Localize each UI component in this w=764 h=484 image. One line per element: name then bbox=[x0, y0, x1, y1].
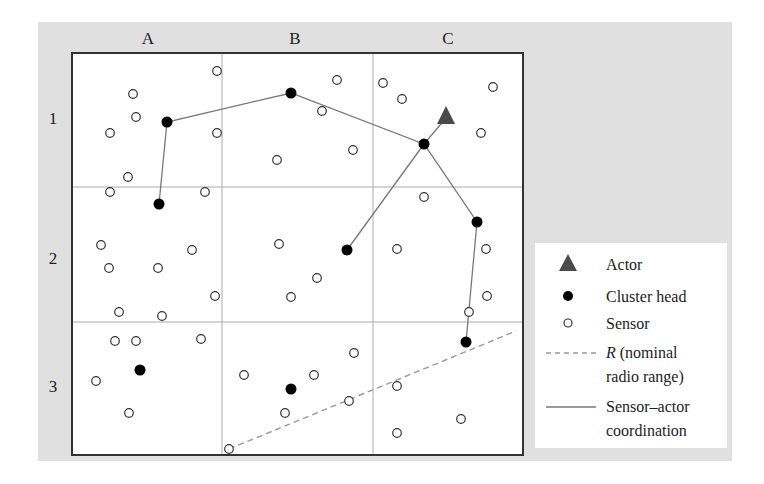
legend-filled-circle-icon bbox=[563, 291, 573, 301]
sensor-node bbox=[197, 335, 206, 344]
sensor-node bbox=[393, 245, 402, 254]
sensor-node bbox=[345, 397, 354, 406]
row-label-1: 1 bbox=[49, 109, 58, 128]
sensor-node bbox=[333, 76, 342, 85]
column-label-a: A bbox=[142, 29, 155, 48]
column-label-b: B bbox=[289, 29, 300, 48]
sensor-node bbox=[240, 371, 249, 380]
legend-label-coordination: Sensor–actor bbox=[606, 398, 690, 415]
cluster-head-node bbox=[135, 365, 146, 376]
sensor-node bbox=[489, 83, 498, 92]
cluster-head-node bbox=[419, 139, 430, 150]
sensor-node bbox=[211, 292, 220, 301]
cluster-head-node bbox=[342, 245, 353, 256]
sensor-node bbox=[132, 113, 141, 122]
sensor-node bbox=[132, 337, 141, 346]
sensor-node bbox=[465, 308, 474, 317]
column-label-c: C bbox=[442, 29, 453, 48]
sensor-node bbox=[349, 146, 358, 155]
sensor-node bbox=[92, 377, 101, 386]
sensor-node bbox=[273, 156, 282, 165]
sensor-node bbox=[457, 415, 466, 424]
plot-area bbox=[72, 53, 523, 455]
sensor-node bbox=[482, 245, 491, 254]
cluster-head-node bbox=[162, 117, 173, 128]
cluster-head-node bbox=[472, 217, 483, 228]
sensor-node bbox=[111, 337, 120, 346]
sensor-node bbox=[379, 79, 388, 88]
sensor-actor-network-diagram: A B C 1 2 3 Actor Cluster head Sensor R … bbox=[0, 0, 764, 484]
legend-label-range-line2: radio range) bbox=[606, 368, 684, 386]
sensor-node bbox=[213, 129, 222, 138]
sensor-node bbox=[115, 308, 124, 317]
cluster-head-node bbox=[286, 384, 297, 395]
cluster-head-node bbox=[286, 88, 297, 99]
legend-label-actor: Actor bbox=[606, 256, 643, 273]
sensor-node bbox=[310, 371, 319, 380]
sensor-node bbox=[105, 264, 114, 273]
sensor-node bbox=[350, 349, 359, 358]
sensor-node bbox=[125, 409, 134, 418]
sensor-node bbox=[154, 264, 163, 273]
legend: Actor Cluster head Sensor R (nominal rad… bbox=[535, 243, 727, 448]
sensor-node bbox=[393, 429, 402, 438]
sensor-node bbox=[201, 188, 210, 197]
legend-label-sensor: Sensor bbox=[606, 315, 650, 332]
legend-label-cluster-head: Cluster head bbox=[606, 288, 686, 305]
sensor-node bbox=[393, 382, 402, 391]
legend-label-range: R (nominal bbox=[605, 344, 678, 362]
sensor-node bbox=[398, 95, 407, 104]
sensor-node bbox=[97, 241, 106, 250]
sensor-node bbox=[313, 274, 322, 283]
sensor-node bbox=[420, 193, 429, 202]
sensor-node bbox=[106, 129, 115, 138]
row-label-3: 3 bbox=[49, 377, 58, 396]
sensor-node bbox=[188, 246, 197, 255]
legend-open-circle-icon bbox=[564, 319, 572, 327]
sensor-node bbox=[213, 67, 222, 76]
sensor-node bbox=[129, 90, 138, 99]
sensor-node bbox=[124, 173, 133, 182]
sensor-node bbox=[483, 292, 492, 301]
row-label-2: 2 bbox=[49, 249, 58, 268]
sensor-node bbox=[275, 240, 284, 249]
sensor-node bbox=[225, 445, 234, 454]
sensor-node bbox=[318, 107, 327, 116]
sensor-node bbox=[477, 129, 486, 138]
cluster-head-node bbox=[461, 337, 472, 348]
sensor-node bbox=[281, 409, 290, 418]
sensor-node bbox=[287, 293, 296, 302]
legend-label-coordination-line2: coordination bbox=[606, 422, 687, 439]
sensor-node bbox=[106, 188, 115, 197]
sensor-node bbox=[158, 312, 167, 321]
cluster-head-node bbox=[154, 199, 165, 210]
